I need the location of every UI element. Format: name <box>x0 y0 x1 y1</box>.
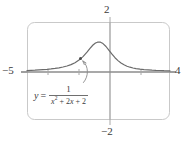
axis-label-left: −5 <box>2 65 14 76</box>
denominator-constant: 2 <box>82 97 86 106</box>
axis-label-right: 4 <box>175 65 181 76</box>
function-graph-figure: 2 −2 −5 4 y = 1 x2 + 2x + 2 <box>0 0 188 144</box>
equation-equals-sign: = <box>40 91 49 101</box>
function-curve <box>27 42 170 71</box>
axis-label-bottom: −2 <box>101 126 113 137</box>
equation-numerator: 1 <box>62 85 75 95</box>
equation-annotation: y = 1 x2 + 2x + 2 <box>34 85 88 106</box>
annotation-point-marker <box>79 57 82 60</box>
plot-canvas <box>0 0 188 144</box>
denominator-operator-2: + <box>73 97 82 106</box>
equation-denominator: x2 + 2x + 2 <box>49 96 88 106</box>
denominator-operator-1: + <box>57 97 66 106</box>
axis-label-top: 2 <box>104 4 110 15</box>
equation-fraction: 1 x2 + 2x + 2 <box>49 85 88 106</box>
